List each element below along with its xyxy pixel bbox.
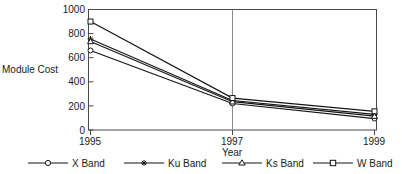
x-tick-label-1997: 1997	[221, 136, 244, 147]
legend-item-ks-band[interactable]: Ks Band	[222, 158, 304, 169]
square-marker-icon	[372, 109, 377, 114]
legend-label-ks-band: Ks Band	[266, 158, 304, 169]
x-tick-label-1999: 1999	[363, 136, 386, 147]
legend-label-w-band: W Band	[357, 158, 393, 169]
y-tick-label-1000: 1000	[63, 4, 86, 15]
y-tick-label-0: 0	[79, 125, 85, 136]
legend-item-w-band[interactable]: W Band	[313, 158, 393, 169]
x-tick-label-1995: 1995	[79, 136, 102, 147]
x-axis-title: Year	[222, 147, 243, 158]
legend-item-ku-band[interactable]: Ku Band	[124, 158, 206, 169]
chart-canvas: 1000 800 600 400 200 0 Module Cost 1995 …	[0, 0, 402, 174]
legend-label-ku-band: Ku Band	[168, 158, 206, 169]
y-tick-label-400: 400	[68, 76, 85, 87]
module-cost-line-chart: 1000 800 600 400 200 0 Module Cost 1995 …	[0, 0, 402, 174]
chart-legend: X Band Ku Band Ks Band W	[28, 158, 393, 169]
circle-marker-icon	[45, 160, 50, 165]
y-axis-title: Module Cost	[2, 64, 58, 75]
asterisk-marker-icon	[141, 160, 147, 166]
legend-label-x-band: X Band	[72, 158, 105, 169]
y-tick-label-200: 200	[68, 101, 85, 112]
legend-item-x-band[interactable]: X Band	[28, 158, 105, 169]
square-marker-icon	[330, 160, 335, 165]
x-axis-ticks	[91, 130, 375, 135]
y-tick-label-600: 600	[68, 52, 85, 63]
y-tick-label-800: 800	[68, 28, 85, 39]
square-marker-icon	[88, 19, 93, 24]
square-marker-icon	[230, 96, 235, 101]
y-axis-ticks	[89, 10, 94, 131]
circle-marker-icon	[88, 48, 93, 53]
